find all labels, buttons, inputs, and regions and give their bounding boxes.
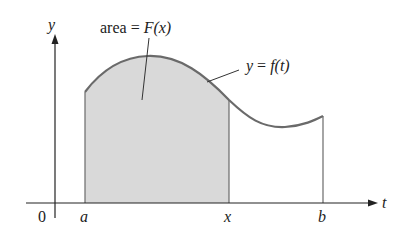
diagram-canvas: y t 0 a x b area = F(x) y = f(t) bbox=[0, 0, 411, 232]
t-axis-arrow-icon bbox=[368, 200, 378, 207]
y-axis-arrow-icon bbox=[52, 34, 59, 44]
area-function-diagram: y t 0 a x b area = F(x) y = f(t) bbox=[0, 0, 411, 232]
curve-label-eq: = bbox=[253, 57, 270, 74]
a-label: a bbox=[80, 208, 88, 225]
x-label: x bbox=[223, 208, 231, 225]
area-func: F(x) bbox=[143, 19, 172, 37]
origin-label: 0 bbox=[38, 208, 46, 225]
t-axis-label: t bbox=[382, 194, 387, 211]
area-text: area = bbox=[100, 19, 144, 36]
b-label: b bbox=[318, 208, 326, 225]
curve-label-f: f(t) bbox=[270, 57, 290, 75]
curve-leader-line bbox=[207, 70, 239, 82]
y-axis-label: y bbox=[46, 16, 56, 34]
shaded-area-region bbox=[85, 56, 229, 203]
area-label: area = F(x) bbox=[100, 19, 171, 37]
curve-label: y = f(t) bbox=[244, 57, 290, 75]
